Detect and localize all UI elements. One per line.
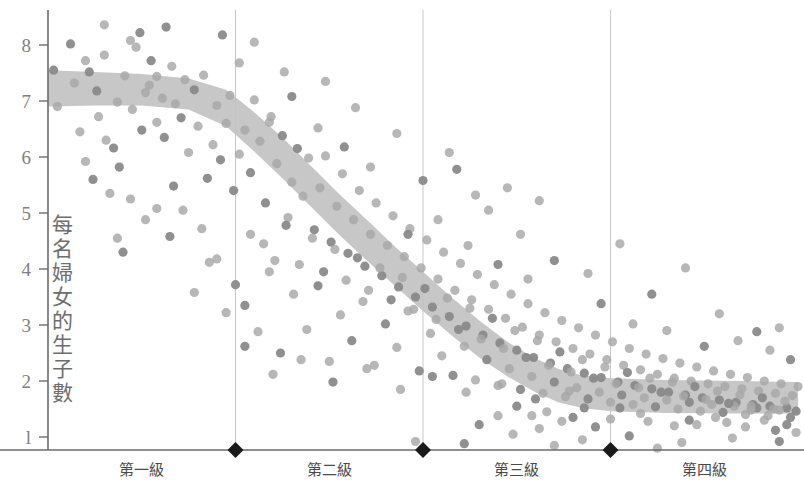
fertility-scatter-chart: 8765432l 第一級第二級第三級第四級 每名婦女的生子數 bbox=[0, 0, 804, 489]
x-category-labels: 第一級第二級第三級第四級 bbox=[119, 461, 727, 479]
svg-text:4: 4 bbox=[22, 259, 32, 280]
svg-text:l: l bbox=[26, 427, 31, 448]
svg-text:7: 7 bbox=[22, 91, 32, 112]
svg-text:5: 5 bbox=[22, 203, 32, 224]
y-axis-title: 每名婦女的生子數 bbox=[48, 214, 73, 406]
svg-text:第二級: 第二級 bbox=[307, 461, 352, 479]
svg-text:第一級: 第一級 bbox=[119, 461, 164, 479]
svg-text:3: 3 bbox=[22, 315, 32, 336]
svg-text:6: 6 bbox=[22, 147, 32, 168]
svg-text:2: 2 bbox=[22, 371, 32, 392]
svg-text:8: 8 bbox=[22, 35, 32, 56]
svg-text:第四級: 第四級 bbox=[682, 461, 727, 479]
svg-text:第三級: 第三級 bbox=[494, 461, 539, 479]
chart-canvas: 8765432l 第一級第二級第三級第四級 bbox=[0, 0, 804, 489]
y-axis-ticks: 8765432l bbox=[22, 35, 49, 448]
